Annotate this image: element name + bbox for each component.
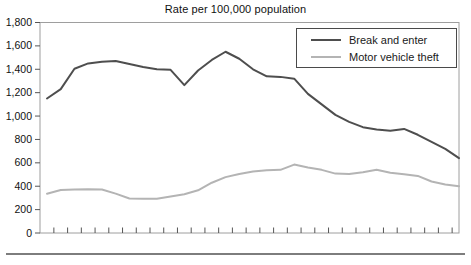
legend: Break and enter Motor vehicle theft: [296, 28, 457, 68]
motor-vehicle-theft-line-swatch: [311, 56, 341, 58]
svg-text:600: 600: [14, 156, 32, 168]
svg-text:1,800: 1,800: [6, 16, 32, 28]
svg-text:1,000: 1,000: [6, 110, 32, 122]
svg-text:200: 200: [14, 203, 32, 215]
svg-text:800: 800: [14, 133, 32, 145]
svg-text:1,400: 1,400: [6, 63, 32, 75]
legend-label: Motor vehicle theft: [349, 51, 439, 63]
legend-label: Break and enter: [349, 34, 427, 46]
legend-item: Break and enter: [297, 33, 456, 47]
figure: Rate per 100,000 population 020040060080…: [0, 0, 471, 265]
bottom-divider: [6, 253, 465, 255]
break-and-enter-line-swatch: [311, 39, 341, 41]
svg-text:1,600: 1,600: [6, 39, 32, 51]
svg-text:0: 0: [26, 227, 32, 239]
svg-text:1,200: 1,200: [6, 86, 32, 98]
svg-text:400: 400: [14, 180, 32, 192]
legend-item: Motor vehicle theft: [297, 50, 456, 64]
